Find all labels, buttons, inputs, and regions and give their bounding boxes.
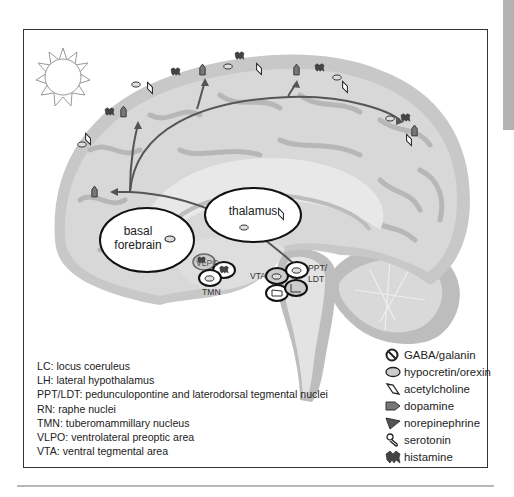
sun-icon [36, 48, 90, 106]
basal-forebrain-label-line2: forebrain [108, 238, 168, 252]
abbreviation-lh: LH: lateral hypothalamus [37, 373, 328, 387]
serotonin-icon [385, 433, 401, 447]
norepinephrine-icon [385, 416, 401, 430]
legend-label-serotonin: serotonin [404, 434, 451, 446]
tmn-label: TMN [202, 287, 221, 297]
acetylcholine-icon [385, 382, 401, 396]
dopamine-icon [385, 399, 401, 413]
abbreviation-ppt-ldt: PPT/LDT: pedunculopontine and laterodors… [37, 387, 328, 401]
hypocretin-orexin-icon [385, 365, 401, 379]
legend-item-orexin: hypocretin/orexin [385, 363, 491, 380]
abbreviation-vta: VTA: ventral tegmental area [37, 444, 328, 458]
legend-item-serotonin: serotonin [385, 431, 491, 448]
legend-label-gaba: GABA/galanin [404, 349, 476, 361]
basal-forebrain-label-line1: basal [108, 224, 168, 238]
legend-item-acetylcholine: acetylcholine [385, 380, 491, 397]
abbreviation-vlpo: VLPO: ventrolateral preoptic area [37, 430, 328, 444]
legend-label-orexin: hypocretin/orexin [404, 366, 491, 378]
abbreviation-lc: LC: locus coeruleus [37, 359, 328, 373]
gaba-galanin-icon [385, 348, 401, 362]
legend-item-gaba: GABA/galanin [385, 346, 491, 363]
legend-item-histamine: histamine [385, 448, 491, 465]
vlpo-label: VLPO [196, 258, 219, 268]
ppt-ldt-label-line1: PPT/ [308, 263, 327, 273]
vta-label: VTA [250, 271, 266, 281]
abbreviation-tmn: TMN: tuberomammillary nucleus [37, 416, 328, 430]
legend-label-acetylcholine: acetylcholine [404, 383, 470, 395]
abbreviation-rn: RN: raphe nuclei [37, 402, 328, 416]
ppt-ldt-label-line2: LDT [308, 274, 324, 284]
thalamus-label: thalamus [220, 204, 286, 218]
abbreviation-list: LC: locus coeruleus LH: lateral hypothal… [37, 359, 328, 458]
legend-label-norepinephrine: norepinephrine [404, 417, 480, 429]
legend: GABA/galanin hypocretin/orexin acetylcho… [385, 346, 491, 465]
legend-label-histamine: histamine [404, 451, 453, 463]
legend-label-dopamine: dopamine [404, 400, 454, 412]
cerebral-cortex [55, 55, 470, 305]
legend-item-norepinephrine: norepinephrine [385, 414, 491, 431]
histamine-icon [385, 450, 401, 464]
legend-item-dopamine: dopamine [385, 397, 491, 414]
